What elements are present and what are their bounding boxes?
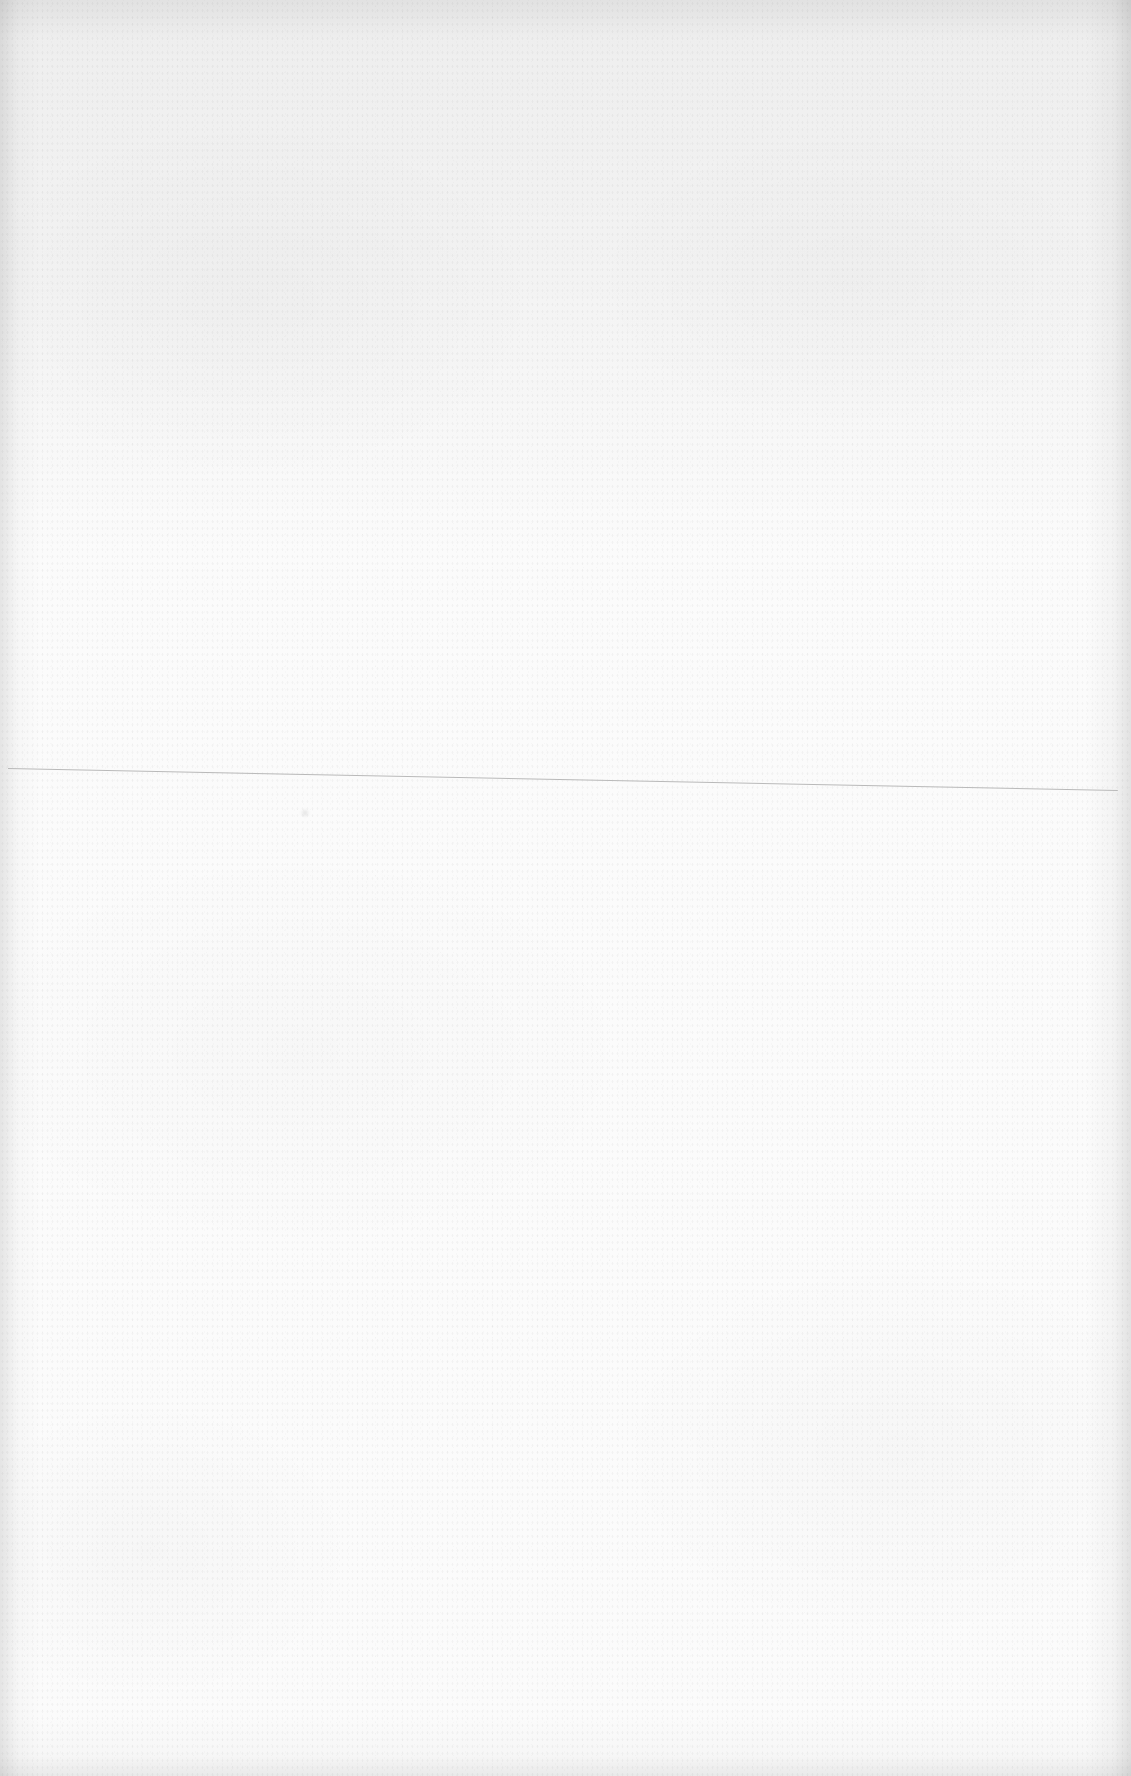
paper-mottle — [0, 0, 1131, 1776]
scan-vignette — [0, 0, 1131, 1776]
document-page — [0, 0, 1131, 1776]
paper-grain — [0, 0, 1131, 1776]
horizontal-rule-line — [8, 768, 1118, 791]
paper-speck — [302, 810, 308, 816]
